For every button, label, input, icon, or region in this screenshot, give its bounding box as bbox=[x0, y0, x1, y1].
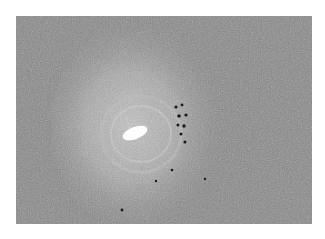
tissue-section bbox=[16, 16, 312, 224]
micrograph-image bbox=[16, 16, 312, 224]
